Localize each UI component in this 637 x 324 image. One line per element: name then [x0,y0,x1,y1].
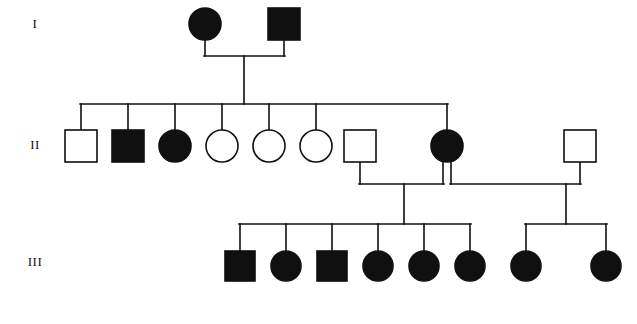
individual-ii-6-unaffected-female[interactable] [300,130,332,162]
pedigree-chart-figure: I II III [0,0,637,324]
individual-iii-5-affected-female[interactable] [409,251,439,281]
individual-ii-9-unaffected-male-spouse[interactable] [564,130,596,162]
individual-ii-4-unaffected-female[interactable] [206,130,238,162]
generation-label-i: I [33,16,38,31]
individual-iii-8-affected-female[interactable] [591,251,621,281]
generation-i-symbols [189,8,300,40]
individual-ii-3-affected-female[interactable] [159,130,191,162]
individual-ii-1-unaffected-male[interactable] [65,130,97,162]
individual-ii-2-affected-male[interactable] [112,130,144,162]
individual-iii-4-affected-female[interactable] [363,251,393,281]
individual-iii-3-affected-male[interactable] [317,251,347,281]
individual-iii-6-affected-female[interactable] [455,251,485,281]
individual-ii-7-unaffected-male-spouse[interactable] [344,130,376,162]
individual-ii-8-affected-female[interactable] [431,130,463,162]
generation-label-iii: III [28,254,43,269]
individual-iii-2-affected-female[interactable] [271,251,301,281]
generation-ii-symbols [65,130,596,162]
individual-iii-7-affected-female[interactable] [511,251,541,281]
individual-i-1-affected-female[interactable] [189,8,221,40]
generation-iii-symbols [225,251,621,281]
individual-ii-5-unaffected-female[interactable] [253,130,285,162]
generation-label-ii: II [30,137,40,152]
individual-iii-1-affected-male[interactable] [225,251,255,281]
individual-i-2-affected-male[interactable] [268,8,300,40]
pedigree-canvas: I II III [0,0,637,324]
generation-label-group: I II III [28,16,43,269]
